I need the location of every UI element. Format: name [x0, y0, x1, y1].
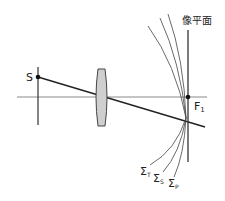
focal-point: [186, 95, 191, 100]
lens: [96, 69, 107, 126]
source-point: [36, 75, 41, 80]
sigma-s-label: ΣS: [153, 172, 164, 185]
source-label: S: [26, 71, 33, 84]
sigma-p-label: ΣP: [168, 177, 179, 190]
image-plane-label: 像平面: [182, 15, 212, 26]
focal-point-label: F1: [194, 100, 205, 114]
field-curvature-diagram: S F1 像平面 ΣT ΣS ΣP: [0, 0, 225, 201]
chief-ray: [38, 77, 205, 127]
surface-s-upper: [160, 18, 186, 118]
surface-t-upper: [148, 26, 186, 118]
sigma-t-label: ΣT: [140, 165, 151, 178]
surface-s-lower: [163, 118, 186, 172]
